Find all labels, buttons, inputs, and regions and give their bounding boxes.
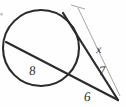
- length-label-x: x: [96, 43, 102, 55]
- length-label-6: 6: [84, 90, 91, 103]
- length-label-8: 8: [28, 64, 36, 78]
- scan-speck: [1, 13, 3, 16]
- length-label-7: 7: [99, 64, 106, 77]
- geometry-diagram-canvas: 8 7 6 x: [0, 0, 126, 107]
- geometry-figure-svg: [0, 0, 126, 107]
